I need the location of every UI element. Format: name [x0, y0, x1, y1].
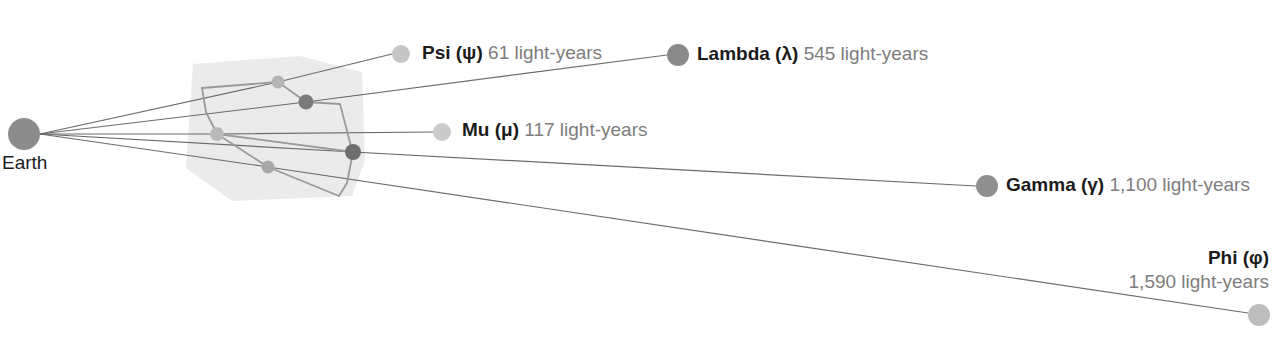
star-distance-mu: 117 light-years	[519, 119, 648, 140]
star-label-phi: Phi (φ)1,590 light-years	[1129, 246, 1269, 294]
star-dot-psi[interactable]	[392, 45, 410, 63]
star-distance-phi: 1,590 light-years	[1129, 270, 1269, 294]
star-name-phi: Phi (φ)	[1129, 246, 1269, 270]
star-upper-right-dot	[299, 95, 314, 110]
star-label-lambda: Lambda (λ) 545 light-years	[697, 43, 928, 65]
star-distance-gamma: 1,100 light-years	[1104, 174, 1250, 195]
star-hub-dot	[345, 144, 361, 160]
earth-node	[8, 118, 40, 150]
star-dot-phi[interactable]	[1248, 304, 1270, 326]
star-dot-gamma[interactable]	[976, 175, 998, 197]
star-dot-lambda[interactable]	[667, 44, 689, 66]
star-dot-mu[interactable]	[433, 123, 451, 141]
star-name-lambda: Lambda (λ)	[697, 43, 798, 64]
sight-line-gamma	[40, 134, 976, 186]
star-upper-left-dot	[272, 76, 285, 89]
star-label-mu: Mu (μ) 117 light-years	[462, 119, 648, 141]
star-left-dot	[210, 127, 224, 141]
star-name-mu: Mu (μ)	[462, 119, 519, 140]
star-label-gamma: Gamma (γ) 1,100 light-years	[1006, 174, 1250, 196]
star-name-psi: Psi (ψ)	[422, 42, 483, 63]
constellation-diagram: Earth Psi (ψ) 61 light-yearsLambda (λ) 5…	[0, 0, 1281, 347]
star-distance-psi: 61 light-years	[483, 42, 602, 63]
star-name-gamma: Gamma (γ)	[1006, 174, 1104, 195]
earth-node-layer	[8, 118, 40, 150]
star-label-psi: Psi (ψ) 61 light-years	[422, 42, 602, 64]
star-distance-lambda: 545 light-years	[798, 43, 928, 64]
earth-label: Earth	[2, 152, 47, 174]
star-lower-dot	[262, 161, 275, 174]
